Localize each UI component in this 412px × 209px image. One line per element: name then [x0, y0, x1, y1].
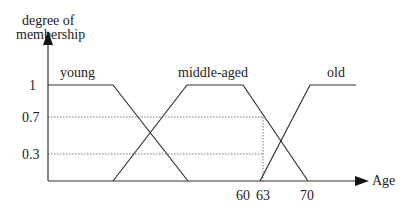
- y-axis-label-line1: degree of: [22, 14, 74, 28]
- x-axis-arrow-icon: [355, 176, 369, 186]
- set-label-old: old: [327, 66, 345, 80]
- y-tick-1: 1: [29, 79, 36, 93]
- old-curve: [260, 85, 356, 181]
- x-tick-63: 63: [256, 189, 270, 203]
- set-label-middle-aged: middle-aged: [178, 66, 248, 80]
- middle-aged-curve: [113, 85, 308, 181]
- y-tick-0.7: 0.7: [22, 111, 40, 125]
- x-tick-60: 60: [236, 189, 250, 203]
- fuzzy-membership-diagram: degree of membership 1 0.7 0.3 young mid…: [0, 0, 412, 209]
- set-label-young: young: [60, 66, 95, 80]
- y-axis-label-line2: membership: [16, 28, 85, 42]
- x-axis-label: Age: [372, 174, 395, 188]
- y-tick-0.3: 0.3: [22, 148, 40, 162]
- young-curve: [48, 85, 188, 181]
- x-tick-70: 70: [300, 189, 314, 203]
